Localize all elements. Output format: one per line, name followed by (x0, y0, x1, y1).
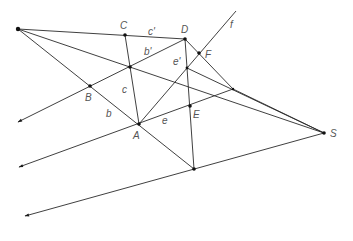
label-c-point: C (120, 20, 128, 31)
point-vertex (232, 88, 234, 90)
label-e-line: e (162, 115, 168, 126)
label-f-point: F (205, 49, 212, 60)
point-d (183, 37, 187, 41)
point-bottom (192, 167, 196, 171)
label-a-point: A (132, 130, 140, 141)
line-p0-bottom (18, 29, 194, 169)
point-s (322, 131, 326, 135)
line-p0-s (18, 29, 324, 133)
point-c (123, 33, 127, 37)
label-e-prime: e' (173, 56, 182, 67)
label-e-point: E (193, 109, 200, 120)
point-center (128, 65, 132, 69)
line-d-f-vertex (185, 39, 233, 89)
line-eprime-s (187, 68, 324, 133)
label-b-prime: b' (144, 46, 153, 57)
label-f-line: f (230, 19, 234, 30)
point-b (88, 84, 92, 88)
label-b-point: B (85, 92, 92, 103)
ray-b-prime (18, 39, 185, 122)
label-s-point: S (330, 128, 337, 139)
point-p0 (16, 27, 20, 31)
label-b-line: b (106, 108, 112, 119)
ray-s-bottom (25, 133, 324, 216)
point-f (197, 51, 201, 55)
point-a (137, 122, 141, 126)
label-c-line: c (122, 84, 127, 95)
label-c-prime: c' (148, 26, 156, 37)
line-c (125, 35, 139, 124)
point-e (188, 104, 192, 108)
label-d-point: D (181, 24, 188, 35)
point-eprime (186, 67, 189, 70)
geometry-diagram: C c' D f F b' e' c B b E e A S (0, 0, 353, 241)
ray-e (19, 89, 233, 167)
